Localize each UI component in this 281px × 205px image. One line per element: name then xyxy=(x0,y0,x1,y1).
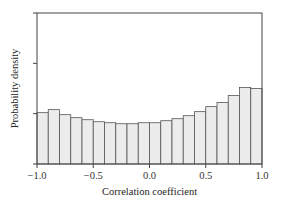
x-tick-label: −1.0 xyxy=(27,170,46,181)
x-tick-label: 0.5 xyxy=(199,170,212,181)
histogram-bar xyxy=(161,121,172,164)
histogram-bar xyxy=(217,103,228,164)
histogram-bar xyxy=(93,122,104,164)
histogram-bar xyxy=(127,124,138,164)
histogram-bar xyxy=(172,119,183,164)
x-tick-label: 1.0 xyxy=(255,170,268,181)
histogram-bar xyxy=(251,89,262,165)
histogram-bar xyxy=(183,116,194,164)
histogram-bar xyxy=(82,120,93,164)
histogram-bars xyxy=(37,87,262,164)
y-axis-label: Probability density xyxy=(9,48,20,128)
x-axis-label: Correlation coefficient xyxy=(102,186,197,197)
x-tick-label: −0.5 xyxy=(84,170,103,181)
histogram-bar xyxy=(228,96,239,164)
histogram-bar xyxy=(105,123,116,164)
histogram-bar xyxy=(195,112,206,164)
x-axis-ticks: −1.0−0.50.00.51.0 xyxy=(27,164,268,181)
histogram-bar xyxy=(138,123,149,164)
y-axis-ticks xyxy=(33,13,37,164)
x-tick-label: 0.0 xyxy=(143,170,156,181)
histogram-bar xyxy=(48,110,59,164)
histogram-bar xyxy=(150,123,161,164)
histogram-bar xyxy=(60,115,71,164)
histogram-bar xyxy=(37,113,48,164)
histogram-bar xyxy=(71,118,82,164)
histogram-bar xyxy=(240,87,251,164)
histogram-bar xyxy=(116,124,127,164)
histogram-chart: −1.0−0.50.00.51.0 Correlation coefficien… xyxy=(0,0,281,205)
histogram-bar xyxy=(206,107,217,164)
